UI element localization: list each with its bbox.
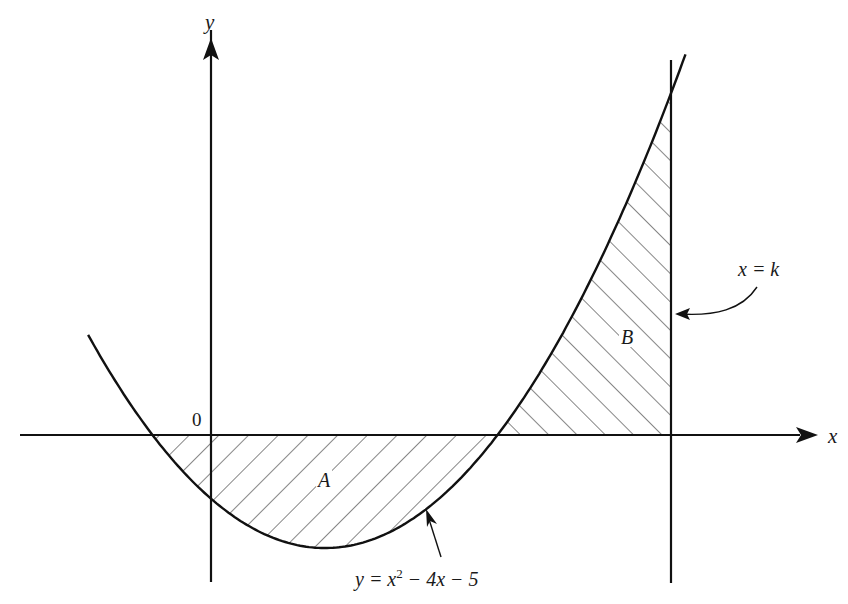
origin-label: 0 <box>192 410 202 429</box>
x-axis-label: x <box>828 426 837 447</box>
region-b-hatching <box>0 0 848 604</box>
x-equals-k-pointer <box>680 287 757 314</box>
curve-equation-prefix: y = x <box>355 568 396 590</box>
region-b-label: B <box>619 327 635 347</box>
region-a-label: A <box>316 470 332 490</box>
y-axis-label: y <box>205 12 214 33</box>
curve-label-arrowhead-icon <box>426 509 437 527</box>
vertical-line-label: x = k <box>738 259 779 279</box>
region-a-hatching <box>0 0 848 604</box>
graph-canvas <box>0 0 848 604</box>
curve-equation-label: y = x2 − 4x − 5 <box>355 567 479 589</box>
curve-equation-suffix: − 4x − 5 <box>403 568 479 590</box>
